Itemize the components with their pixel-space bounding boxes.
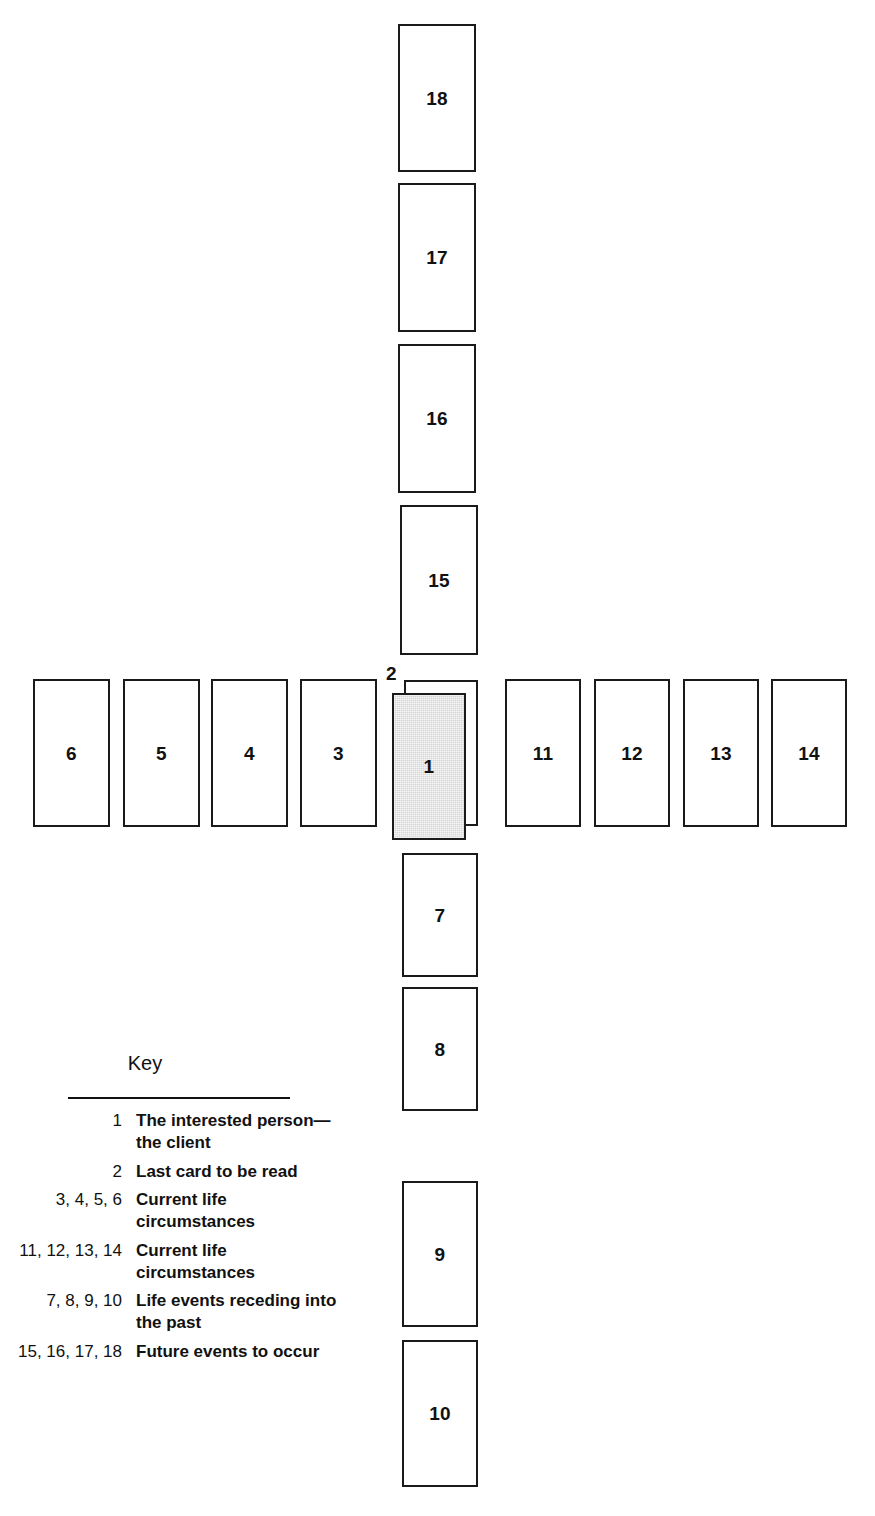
card-5-number: 5 bbox=[156, 744, 167, 763]
card-14[interactable]: 14 bbox=[771, 679, 847, 827]
key-row-numbers: 3, 4, 5, 6 bbox=[0, 1189, 122, 1211]
card-18[interactable]: 18 bbox=[398, 24, 476, 172]
card-6[interactable]: 6 bbox=[33, 679, 110, 827]
card-16-number: 16 bbox=[426, 409, 448, 428]
key-row: 15, 16, 17, 18Future events to occur bbox=[0, 1341, 340, 1363]
card-3[interactable]: 3 bbox=[300, 679, 377, 827]
card-13[interactable]: 13 bbox=[683, 679, 759, 827]
key-row: 2Last card to be read bbox=[0, 1161, 340, 1183]
key-row-label: Last card to be read bbox=[122, 1161, 340, 1183]
card-4-number: 4 bbox=[244, 744, 255, 763]
card-1-number: 1 bbox=[424, 757, 435, 776]
card-9[interactable]: 9 bbox=[402, 1181, 478, 1327]
card-17-number: 17 bbox=[426, 248, 448, 267]
key-row-numbers: 7, 8, 9, 10 bbox=[0, 1290, 122, 1312]
card-6-number: 6 bbox=[66, 744, 77, 763]
card-13-number: 13 bbox=[710, 744, 732, 763]
key-rows: 1The interested person— the client2Last … bbox=[0, 1110, 340, 1370]
card-4[interactable]: 4 bbox=[211, 679, 288, 827]
card-8-number: 8 bbox=[435, 1040, 446, 1059]
card-9-number: 9 bbox=[435, 1245, 446, 1264]
card-7[interactable]: 7 bbox=[402, 853, 478, 977]
card-1[interactable]: 1 bbox=[392, 693, 466, 840]
card-17[interactable]: 17 bbox=[398, 183, 476, 332]
card-14-number: 14 bbox=[798, 744, 820, 763]
card-2-number: 2 bbox=[386, 664, 397, 683]
key-row: 11, 12, 13, 14Current life circumstances bbox=[0, 1240, 340, 1284]
card-11-number: 11 bbox=[533, 744, 554, 763]
card-12[interactable]: 12 bbox=[594, 679, 670, 827]
card-7-number: 7 bbox=[435, 906, 446, 925]
key-row-label: Life events receding into the past bbox=[122, 1290, 340, 1334]
key-divider bbox=[68, 1097, 290, 1099]
key-row-label: Current life circumstances bbox=[122, 1189, 340, 1233]
card-3-number: 3 bbox=[333, 744, 344, 763]
key-row-label: The interested person— the client bbox=[122, 1110, 340, 1154]
card-16[interactable]: 16 bbox=[398, 344, 476, 493]
card-15[interactable]: 15 bbox=[400, 505, 478, 655]
card-11[interactable]: 11 bbox=[505, 679, 581, 827]
spread-diagram: 181716156543211112131478910 Key 1The int… bbox=[0, 0, 875, 1516]
key-row: 3, 4, 5, 6Current life circumstances bbox=[0, 1189, 340, 1233]
card-8[interactable]: 8 bbox=[402, 987, 478, 1111]
key-row: 1The interested person— the client bbox=[0, 1110, 340, 1154]
key-row-numbers: 1 bbox=[0, 1110, 122, 1132]
key-title: Key bbox=[0, 1052, 290, 1074]
key-row-numbers: 2 bbox=[0, 1161, 122, 1183]
key-row-numbers: 11, 12, 13, 14 bbox=[0, 1240, 122, 1262]
card-15-number: 15 bbox=[428, 571, 450, 590]
card-12-number: 12 bbox=[621, 744, 643, 763]
key-row-numbers: 15, 16, 17, 18 bbox=[0, 1341, 122, 1363]
card-18-number: 18 bbox=[426, 89, 448, 108]
key-row: 7, 8, 9, 10Life events receding into the… bbox=[0, 1290, 340, 1334]
key-legend: Key 1The interested person— the client2L… bbox=[0, 1052, 340, 1081]
card-10-number: 10 bbox=[429, 1404, 451, 1423]
key-row-label: Future events to occur bbox=[122, 1341, 340, 1363]
card-5[interactable]: 5 bbox=[123, 679, 200, 827]
key-row-label: Current life circumstances bbox=[122, 1240, 340, 1284]
card-10[interactable]: 10 bbox=[402, 1340, 478, 1487]
